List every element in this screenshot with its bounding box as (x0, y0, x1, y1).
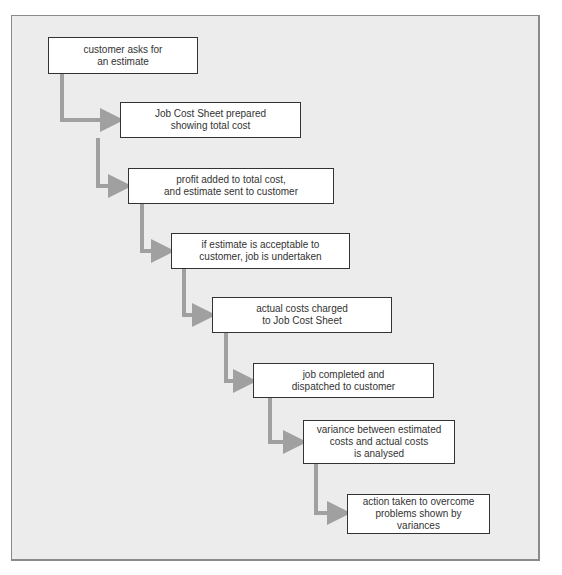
step-3-profit-and-estimate: profit added to total cost, and estimate… (128, 168, 334, 204)
arrow-4-to-5 (184, 269, 196, 315)
arrow-5-to-6 (226, 332, 237, 381)
arrow-6-to-7 (270, 398, 287, 442)
arrow-7-to-8 (316, 464, 331, 513)
step-7-variance-analysis: variance between estimated costs and act… (303, 420, 455, 464)
step-6-job-completed: job completed and dispatched to customer (253, 363, 434, 398)
arrow-3-to-4 (142, 204, 155, 251)
arrow-2-to-3 (98, 138, 112, 186)
arrow-1-to-2 (62, 73, 104, 120)
step-1-customer-request: customer asks for an estimate (48, 37, 198, 74)
step-5-actual-costs-charged: actual costs charged to Job Cost Sheet (212, 297, 392, 333)
connector-arrows (0, 0, 562, 575)
step-4-job-undertaken: if estimate is acceptable to customer, j… (171, 233, 350, 269)
step-2-job-cost-sheet: Job Cost Sheet prepared showing total co… (120, 102, 301, 138)
step-8-corrective-action: action taken to overcome problems shown … (347, 494, 490, 534)
